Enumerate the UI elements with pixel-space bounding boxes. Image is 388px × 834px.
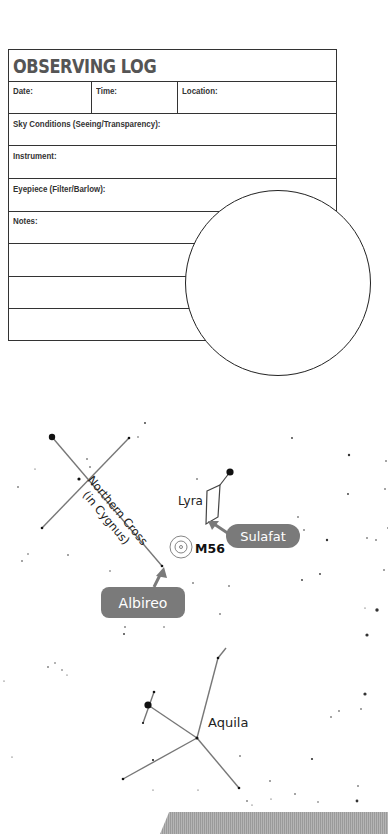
- divider: [8, 178, 337, 179]
- deneb-star: [49, 434, 55, 440]
- eyepiece-field[interactable]: Eyepiece (Filter/Barlow):: [13, 184, 105, 194]
- svg-text:Albireo: Albireo: [119, 595, 168, 611]
- divider: [8, 113, 337, 114]
- sky-conditions-field[interactable]: Sky Conditions (Seeing/Transparency):: [13, 119, 160, 129]
- location-field[interactable]: Location:: [182, 86, 218, 96]
- divider: [8, 81, 337, 82]
- decorative-stripe-band: [160, 812, 388, 834]
- albireo-callout: Albireo: [101, 567, 185, 618]
- divider: [8, 145, 337, 146]
- vega-star: [226, 468, 233, 475]
- log-title: OBSERVING LOG: [13, 55, 156, 77]
- lyra-lines: [206, 472, 230, 524]
- lyra-label: Lyra: [178, 494, 203, 508]
- altair-star: [144, 701, 151, 708]
- divider: [177, 81, 178, 113]
- eyepiece-sketch-circle[interactable]: [185, 190, 371, 376]
- aquila-label: Aquila: [208, 715, 248, 730]
- star-map: Northern Cross (in Cygnus) Lyra M56 Sula…: [0, 380, 388, 834]
- m56-icon: [170, 536, 192, 558]
- instrument-field[interactable]: Instrument:: [13, 151, 57, 161]
- m56-label: M56: [195, 541, 225, 556]
- divider: [91, 81, 92, 113]
- notes-field[interactable]: Notes:: [13, 216, 38, 226]
- background-stars: [3, 422, 388, 806]
- date-field[interactable]: Date:: [13, 86, 33, 96]
- time-field[interactable]: Time:: [96, 86, 117, 96]
- svg-text:Sulafat: Sulafat: [240, 529, 286, 544]
